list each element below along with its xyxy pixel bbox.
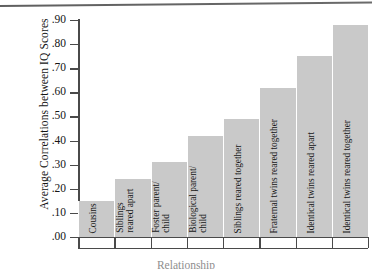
bar-label-line1-2: Foster parent/ [151,155,161,233]
y-tick-label-wrap: .40 [34,135,66,147]
y-tick-label: .30 [36,159,66,171]
y-tick-label-wrap: .00 [34,231,66,243]
x-axis-title: Relationship [0,259,372,269]
x-tick-mark [332,237,333,248]
y-tick-label-wrap: .10 [34,207,66,219]
x-tick-mark [151,237,152,248]
x-axis-baseline-lower [78,248,368,249]
y-tick-label: .80 [36,38,66,50]
x-tick-mark [223,237,224,248]
y-tick-label: .60 [36,86,66,98]
bar-label-4: Siblings reared together [233,144,243,233]
y-tick-label-wrap: .30 [34,159,66,171]
bar-label-line2-3: child [198,155,208,233]
y-tick-mark [70,141,78,142]
bar-1: Siblingsreared apart [114,179,150,237]
bar-label-3: Biological parent/child [187,155,208,233]
y-tick-label-wrap: .60 [34,86,66,98]
y-tick-mark [70,92,78,93]
x-tick-mark [114,237,115,248]
y-tick-label: .10 [36,207,66,219]
x-tick-mark [259,237,260,248]
y-tick-label: .00 [36,231,66,243]
y-tick-label-wrap: .50 [34,110,66,122]
bar-3: Biological parent/child [187,136,223,237]
y-tick-mark [70,20,78,21]
y-tick-label: .70 [36,62,66,74]
y-tick-label: .40 [36,135,66,147]
bar-label-line2-1: reared apart [125,155,135,233]
bar-4: Siblings reared together [223,119,259,237]
y-tick-label: .20 [36,183,66,195]
bar-label-line1-1: Siblings [115,155,125,233]
bar-label-7: Identical twins reared together [342,120,352,233]
bar-label-6: Identical twins reared apart [305,132,315,233]
x-tick-mark [187,237,188,248]
y-tick-mark [70,165,78,166]
bar-label-2: Foster parent/child [151,155,172,233]
iq-correlation-bar-chart: Average Correlations between IQ Scores .… [0,0,372,269]
bar-7: Identical twins reared together [332,25,368,237]
bar-label-line1-3: Biological parent/ [187,155,197,233]
y-tick-label: .90 [36,14,66,26]
y-tick-label-wrap: .80 [34,38,66,50]
y-tick-label: .50 [36,110,66,122]
y-tick-mark [70,44,78,45]
y-tick-label-wrap: .70 [34,62,66,74]
y-tick-mark [70,68,78,69]
y-tick-mark [70,116,78,117]
x-tick-mark [368,237,369,248]
y-tick-mark [70,237,78,238]
y-tick-mark [70,189,78,190]
bar-0: Cousins [78,201,114,237]
bar-label-line2-2: child [161,155,171,233]
bar-6: Identical twins reared apart [296,56,332,237]
bar-5: Fraternal twins reared together [259,88,295,237]
bar-2: Foster parent/child [151,162,187,237]
y-tick-mark [70,213,78,214]
y-tick-label-wrap: .90 [34,14,66,26]
y-tick-label-wrap: .20 [34,183,66,195]
bar-label-0: Cousins [88,203,98,233]
x-tick-mark [78,237,79,248]
plot-area: CousinsSiblingsreared apartFoster parent… [78,20,368,237]
bar-label-5: Fraternal twins reared together [269,119,279,233]
x-tick-mark [296,237,297,248]
top-rule-divider [0,1,372,7]
bar-label-1: Siblingsreared apart [115,155,136,233]
